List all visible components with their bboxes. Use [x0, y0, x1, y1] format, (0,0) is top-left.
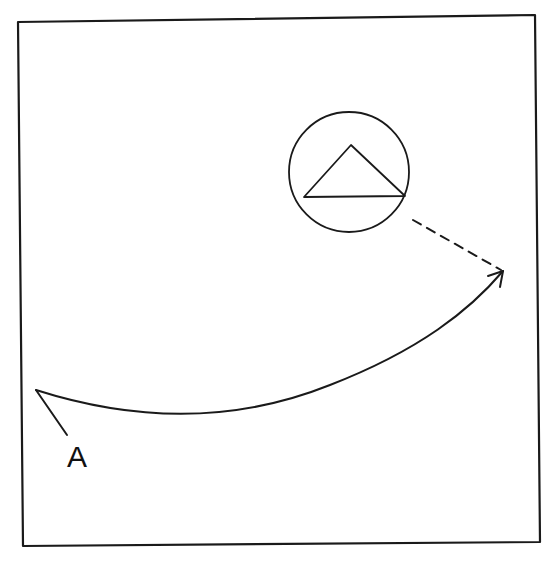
label-a: A — [67, 440, 87, 473]
dashed-connector-line — [413, 220, 501, 270]
triangle-shape — [304, 145, 405, 197]
diagram-canvas: A — [0, 0, 550, 562]
circle-shape — [289, 112, 409, 232]
frame-rectangle — [18, 15, 540, 546]
curved-arrow-path — [36, 271, 503, 414]
